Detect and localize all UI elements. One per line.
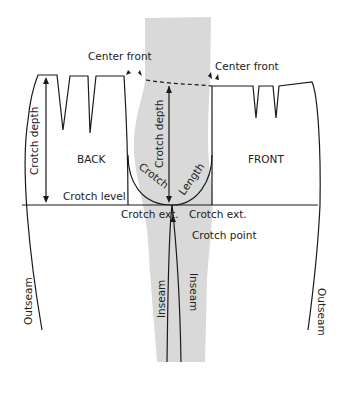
front-outline	[212, 82, 320, 330]
outseam-left-label: Outseam	[22, 277, 34, 325]
inseam-left-label: Inseam	[155, 280, 167, 318]
front-piece-label: FRONT	[248, 153, 284, 165]
crotch-level-label: Crotch level	[63, 190, 126, 202]
inseam-right-label: Inseam	[188, 273, 200, 311]
diagram-canvas: Center front Center front Crotch depth C…	[0, 0, 343, 396]
pattern-diagram: Center front Center front Crotch depth C…	[0, 0, 343, 396]
crotch-point-label: Crotch point	[192, 229, 257, 241]
back-piece-label: BACK	[77, 153, 107, 165]
center-front-label-right: Center front	[215, 60, 279, 72]
outseam-right-label: Outseam	[316, 288, 328, 336]
center-front-label-left: Center front	[88, 50, 152, 62]
crotch-depth-back-label: Crotch depth	[28, 107, 40, 175]
back-outline	[25, 75, 128, 330]
crotch-depth-center-label: Crotch depth	[153, 100, 165, 168]
crotch-ext-left-label: Crotch ext.	[121, 208, 179, 220]
crotch-ext-right-label: Crotch ext.	[189, 208, 247, 220]
